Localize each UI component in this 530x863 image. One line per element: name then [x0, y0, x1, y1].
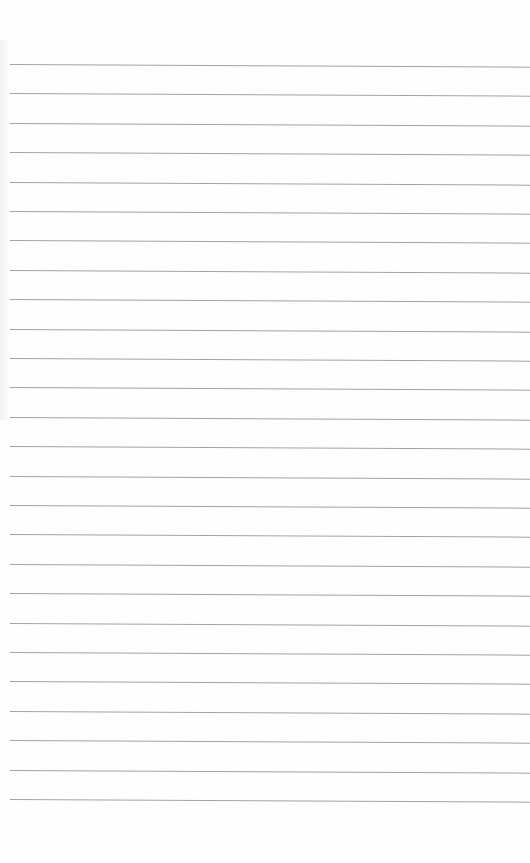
ruled-line — [10, 711, 530, 715]
ruled-line — [10, 799, 530, 803]
ruled-line — [10, 417, 530, 421]
ruled-line — [10, 623, 530, 627]
ruled-line — [10, 681, 530, 685]
ruled-line — [10, 182, 530, 186]
ruled-line — [10, 770, 530, 774]
ruled-line — [10, 240, 530, 244]
ruled-line — [10, 211, 530, 215]
ruled-line — [10, 740, 530, 744]
page-edge-shadow — [0, 40, 10, 420]
ruled-line — [10, 358, 530, 362]
ruled-line — [10, 505, 530, 509]
ruled-line — [10, 564, 530, 568]
ruled-line — [10, 534, 530, 538]
ruled-line — [10, 64, 530, 68]
lined-paper-page — [0, 0, 530, 863]
ruled-line — [10, 476, 530, 480]
ruled-line — [10, 123, 530, 127]
ruled-line — [10, 652, 530, 656]
ruled-line — [10, 93, 530, 97]
ruled-line — [10, 152, 530, 156]
ruled-line — [10, 593, 530, 597]
ruled-line — [10, 387, 530, 391]
ruled-line — [10, 329, 530, 333]
ruled-line — [10, 299, 530, 303]
ruled-line — [10, 446, 530, 450]
ruled-line — [10, 270, 530, 274]
